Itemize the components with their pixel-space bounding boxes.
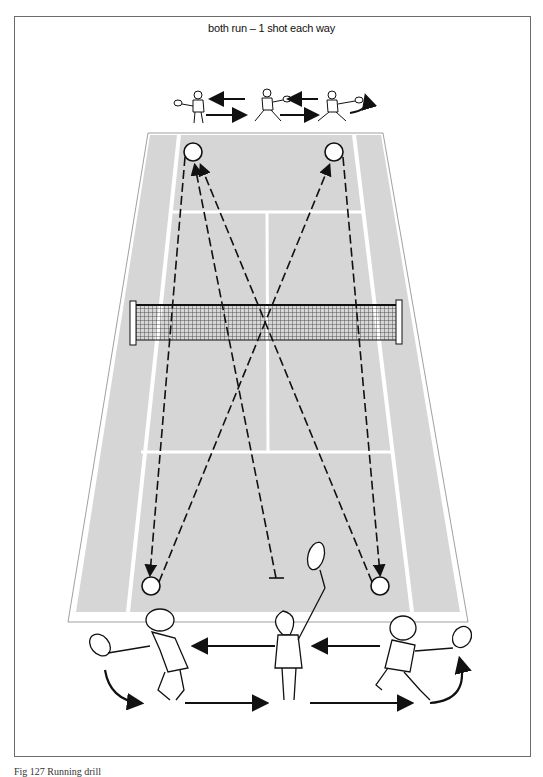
- tennis-court: [68, 133, 468, 622]
- left-net-post: [130, 301, 136, 345]
- racket-icon: [85, 630, 114, 660]
- tennis-drill-diagram: [0, 0, 543, 777]
- top-center-player: [255, 89, 291, 121]
- ball-top-right: [325, 143, 343, 161]
- racket-icon: [174, 100, 182, 106]
- ball-bottom-right: [371, 577, 389, 595]
- racket-icon: [283, 96, 291, 102]
- racket-icon: [355, 97, 363, 103]
- ball-bottom-left: [142, 577, 160, 595]
- bottom-left-player: [85, 609, 188, 700]
- top-players: [174, 89, 363, 123]
- ball-top-left: [184, 143, 202, 161]
- top-left-player: [174, 91, 204, 123]
- racket-icon: [449, 623, 476, 651]
- figure-caption: Fig 127 Running drill: [14, 766, 101, 777]
- top-right-player: [318, 91, 363, 121]
- right-net-post: [396, 300, 402, 344]
